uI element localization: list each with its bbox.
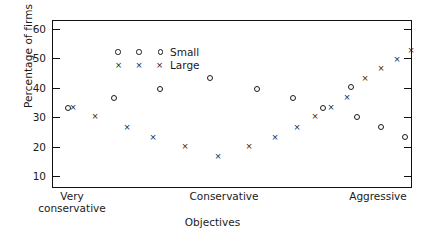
scatter-chart-figure: Percentage of firms Small × × × Large ×	[0, 0, 425, 245]
legend-label-small: Small	[167, 46, 199, 58]
data-point-large: ×	[344, 94, 351, 101]
y-tick-mark	[404, 29, 412, 30]
data-point-large: ×	[182, 143, 189, 150]
legend-entry-small: Small	[115, 46, 200, 58]
y-tick-label: 20	[18, 142, 46, 152]
x-axis-title: Objectives	[0, 216, 425, 228]
x-tick-label: Conservative	[174, 191, 274, 203]
y-tick-mark	[52, 88, 60, 89]
legend-marker-group-circle	[115, 49, 167, 55]
data-point-small	[320, 105, 326, 111]
y-tick-label: 30	[18, 112, 46, 122]
y-tick-mark	[404, 147, 412, 148]
data-point-large: ×	[272, 134, 279, 141]
y-tick-mark	[52, 58, 60, 59]
legend-label-large: Large	[167, 59, 200, 71]
y-tick-mark	[404, 117, 412, 118]
data-point-small	[207, 75, 213, 81]
legend-marker-group-x: × × ×	[115, 61, 167, 69]
data-point-small	[157, 86, 163, 92]
data-point-small	[354, 114, 360, 120]
x-marker-icon: ×	[156, 61, 163, 69]
data-point-large: ×	[328, 104, 335, 111]
data-point-large: ×	[246, 143, 253, 150]
circle-marker-icon	[136, 49, 142, 55]
x-tick-label: Very conservative	[22, 191, 122, 214]
x-marker-icon: ×	[115, 61, 122, 69]
x-tick-label: Aggressive	[328, 191, 425, 203]
data-point-large: ×	[124, 124, 131, 131]
y-tick-mark	[52, 117, 60, 118]
data-point-small	[254, 86, 260, 92]
circle-marker-icon	[115, 49, 121, 55]
y-tick-mark	[52, 29, 60, 30]
y-tick-label: 10	[18, 171, 46, 181]
data-point-small	[348, 84, 354, 90]
data-point-small	[378, 124, 384, 130]
data-point-large: ×	[362, 75, 369, 82]
data-point-large: ×	[70, 104, 77, 111]
data-point-large: ×	[408, 47, 415, 54]
y-tick-mark	[52, 176, 60, 177]
plot-area: Small × × × Large ××××××××××××××××	[52, 20, 412, 188]
y-tick-label: 50	[18, 53, 46, 63]
data-point-small	[290, 95, 296, 101]
y-tick-mark	[404, 58, 412, 59]
data-point-large: ×	[150, 134, 157, 141]
circle-marker-icon	[158, 49, 164, 55]
data-point-small	[402, 134, 408, 140]
data-point-large: ×	[394, 56, 401, 63]
data-point-small	[111, 95, 117, 101]
y-tick-mark	[404, 88, 412, 89]
y-tick-label: 40	[18, 83, 46, 93]
y-tick-mark	[404, 176, 412, 177]
y-tick-mark	[52, 147, 60, 148]
chart-legend: Small × × × Large	[115, 46, 200, 72]
data-point-large: ×	[92, 113, 99, 120]
y-tick-label: 60	[18, 24, 46, 34]
x-marker-icon: ×	[135, 61, 142, 69]
data-point-large: ×	[215, 153, 222, 160]
data-point-large: ×	[378, 65, 385, 72]
data-point-large: ×	[312, 113, 319, 120]
data-point-large: ×	[294, 124, 301, 131]
legend-entry-large: × × × Large	[115, 59, 200, 71]
